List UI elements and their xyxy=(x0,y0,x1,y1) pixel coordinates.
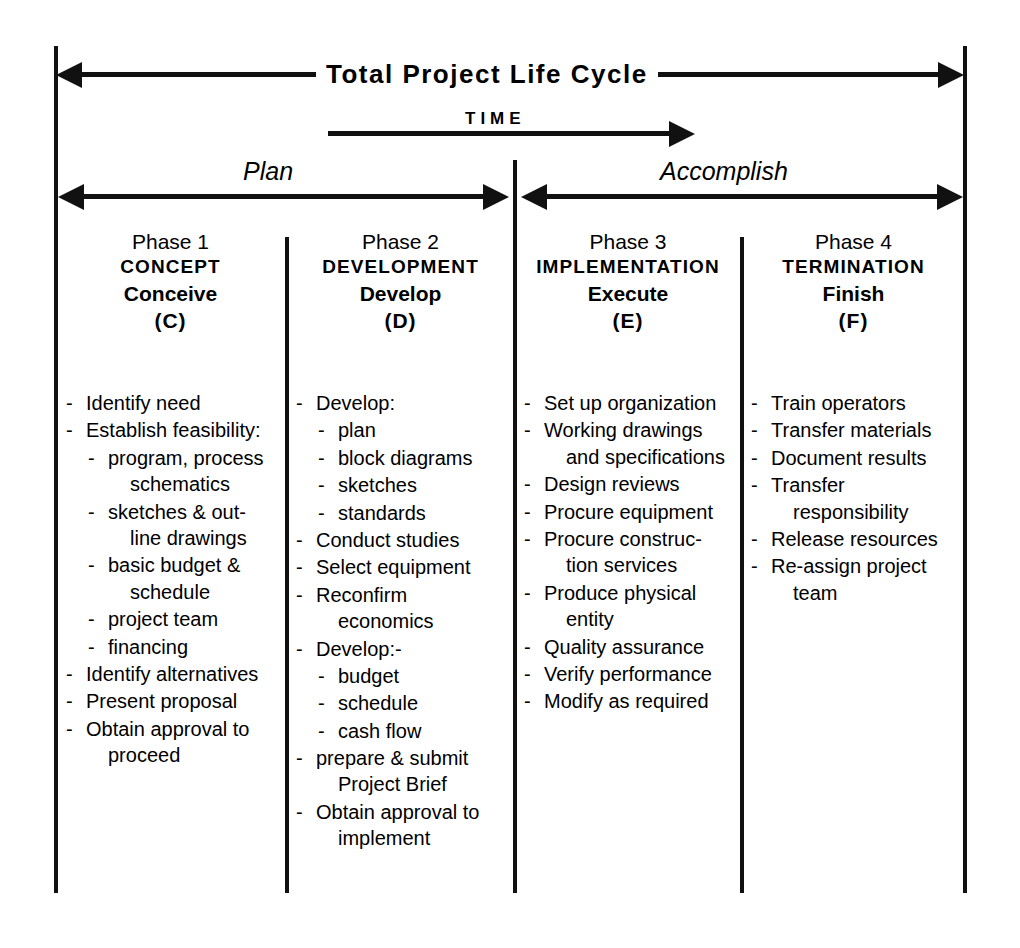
task-item: -prepare & submitProject Brief xyxy=(296,745,510,798)
task-item: -sketches & out-line drawings xyxy=(66,499,280,552)
task-label-continuation: economics xyxy=(316,608,510,634)
phase-2-verb: Develop xyxy=(289,280,512,307)
task-label: plan xyxy=(338,417,510,443)
dash-bullet-icon: - xyxy=(66,661,73,687)
task-item: -Modify as required xyxy=(524,688,738,714)
phase-2-code: (D) xyxy=(289,307,512,334)
task-item: -Identify need xyxy=(66,390,280,416)
frame-left-border xyxy=(54,46,58,893)
task-label: block diagrams xyxy=(338,445,510,471)
phase-3-verb: Execute xyxy=(517,280,739,307)
task-item: -Select equipment xyxy=(296,554,510,580)
dash-bullet-icon: - xyxy=(318,500,325,526)
task-label-continuation: Project Brief xyxy=(316,771,510,797)
task-label: Select equipment xyxy=(316,554,510,580)
dash-bullet-icon: - xyxy=(318,445,325,471)
task-label: Develop: xyxy=(316,390,510,416)
accomplish-band-label: Accomplish xyxy=(660,157,788,186)
task-label: Obtain approval to xyxy=(86,716,280,742)
task-item: -project team xyxy=(66,606,280,632)
task-label: Design reviews xyxy=(544,471,738,497)
phase-1-name: CONCEPT xyxy=(58,255,283,280)
task-item: -Establish feasibility: xyxy=(66,417,280,443)
phase-4-name: TERMINATION xyxy=(744,255,963,280)
task-item: -Working drawingsand specifications xyxy=(524,417,738,470)
task-label: Transfer xyxy=(771,472,961,498)
task-label: Verify performance xyxy=(544,661,738,687)
task-item: -financing xyxy=(66,634,280,660)
phase-2-number: Phase 2 xyxy=(289,228,512,255)
phase-column-2-header: Phase 2 DEVELOPMENT Develop (D) xyxy=(289,228,512,335)
dash-bullet-icon: - xyxy=(296,636,303,662)
task-item: -Reconfirmeconomics xyxy=(296,582,510,635)
task-label-continuation: team xyxy=(771,580,961,606)
phase-3-name: IMPLEMENTATION xyxy=(517,255,739,280)
task-label: Identify need xyxy=(86,390,280,416)
task-label: budget xyxy=(338,663,510,689)
task-item: -Quality assurance xyxy=(524,634,738,660)
task-item: -plan xyxy=(296,417,510,443)
task-label: program, process xyxy=(108,445,280,471)
task-label: cash flow xyxy=(338,718,510,744)
phase-2-task-list: -Develop:-plan-block diagrams-sketches-s… xyxy=(296,390,510,853)
task-label: sketches xyxy=(338,472,510,498)
frame-right-border xyxy=(963,46,967,893)
task-item: -Verify performance xyxy=(524,661,738,687)
dash-bullet-icon: - xyxy=(66,417,73,443)
dash-bullet-icon: - xyxy=(751,390,758,416)
phase-4-code: (F) xyxy=(744,307,963,334)
task-item: -basic budget &schedule xyxy=(66,552,280,605)
phase-2-name: DEVELOPMENT xyxy=(289,255,512,280)
phase-1-code: (C) xyxy=(58,307,283,334)
dash-bullet-icon: - xyxy=(524,634,531,660)
dash-bullet-icon: - xyxy=(524,661,531,687)
task-label: Procure construc- xyxy=(544,526,738,552)
dash-bullet-icon: - xyxy=(66,688,73,714)
task-label: basic budget & xyxy=(108,552,280,578)
dash-bullet-icon: - xyxy=(88,445,95,471)
dash-bullet-icon: - xyxy=(88,552,95,578)
dash-bullet-icon: - xyxy=(751,553,758,579)
dash-bullet-icon: - xyxy=(751,417,758,443)
task-item: -block diagrams xyxy=(296,445,510,471)
task-label: standards xyxy=(338,500,510,526)
task-item: -Obtain approval toproceed xyxy=(66,716,280,769)
column-divider-3 xyxy=(740,237,744,893)
phase-3-task-list: -Set up organization-Working drawingsand… xyxy=(524,390,738,716)
task-item: -Train operators xyxy=(751,390,961,416)
task-item: -Re-assign projectteam xyxy=(751,553,961,606)
dash-bullet-icon: - xyxy=(296,554,303,580)
task-label: Identify alternatives xyxy=(86,661,280,687)
task-item: -Procure equipment xyxy=(524,499,738,525)
dash-bullet-icon: - xyxy=(296,527,303,553)
task-item: -Design reviews xyxy=(524,471,738,497)
task-label: Quality assurance xyxy=(544,634,738,660)
task-item: -standards xyxy=(296,500,510,526)
task-item: -Release resources xyxy=(751,526,961,552)
phase-4-verb: Finish xyxy=(744,280,963,307)
dash-bullet-icon: - xyxy=(524,526,531,552)
task-label: Release resources xyxy=(771,526,961,552)
dash-bullet-icon: - xyxy=(751,526,758,552)
task-label: Conduct studies xyxy=(316,527,510,553)
plan-band-label: Plan xyxy=(243,157,293,186)
phase-4-task-list: -Train operators-Transfer materials-Docu… xyxy=(751,390,961,607)
task-item: -Set up organization xyxy=(524,390,738,416)
phase-3-code: (E) xyxy=(517,307,739,334)
dash-bullet-icon: - xyxy=(318,472,325,498)
phase-1-number: Phase 1 xyxy=(58,228,283,255)
dash-bullet-icon: - xyxy=(66,390,73,416)
task-item: -sketches xyxy=(296,472,510,498)
phase-column-4-header: Phase 4 TERMINATION Finish (F) xyxy=(744,228,963,335)
dash-bullet-icon: - xyxy=(88,606,95,632)
task-label: Produce physical xyxy=(544,580,738,606)
task-item: -Develop:- xyxy=(296,636,510,662)
phase-column-3-header: Phase 3 IMPLEMENTATION Execute (E) xyxy=(517,228,739,335)
dash-bullet-icon: - xyxy=(296,390,303,416)
task-item: -Develop: xyxy=(296,390,510,416)
task-item: -Identify alternatives xyxy=(66,661,280,687)
phase-1-task-list: -Identify need-Establish feasibility:-pr… xyxy=(66,390,280,769)
task-label: Establish feasibility: xyxy=(86,417,280,443)
dash-bullet-icon: - xyxy=(524,417,531,443)
task-label: Obtain approval to xyxy=(316,799,510,825)
